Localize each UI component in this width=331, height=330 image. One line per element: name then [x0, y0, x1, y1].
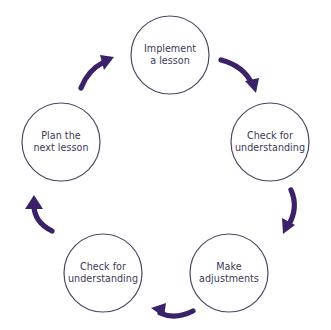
node-circle-check-for-understanding-left [64, 234, 142, 312]
arrow-implement-to-check-right [221, 60, 259, 93]
node-circles [22, 16, 309, 312]
node-circle-implement-a-lesson [131, 16, 209, 94]
cycle-diagram: Implement a lesson Check for understandi… [0, 0, 331, 330]
arrow-plan-to-implement [81, 55, 114, 88]
node-circle-make-adjustments [190, 234, 268, 312]
node-circle-plan-the-next-lesson [22, 103, 100, 181]
cycle-diagram-canvas [0, 0, 331, 330]
arrow-check-left-to-plan [25, 195, 52, 231]
node-circle-check-for-understanding-right [231, 103, 309, 181]
arrow-check-right-to-make-adjustments [282, 190, 295, 234]
cycle-arrows [25, 55, 295, 317]
arrow-make-adjustments-to-check-left [151, 303, 193, 317]
